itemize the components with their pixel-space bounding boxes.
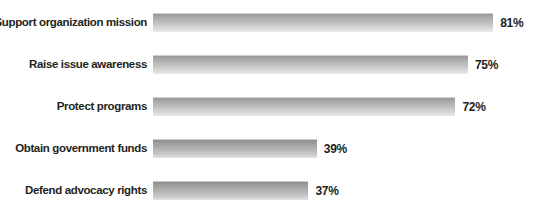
bar-track: [153, 97, 455, 116]
bar-fill: [153, 181, 308, 200]
category-label: Defend advocacy rights: [25, 185, 147, 197]
category-label: Obtain government funds: [15, 143, 147, 155]
bar-fill: [153, 139, 317, 158]
bar-row: Raise issue awareness 75%: [0, 55, 549, 74]
bar-fill: [153, 13, 493, 32]
bar-value-label: 37%: [315, 185, 338, 197]
bar-fill: [153, 55, 468, 74]
category-label: Protect programs: [57, 101, 147, 113]
plot-area: Support organization mission 81% Raise i…: [0, 0, 549, 218]
bar-track: [153, 13, 493, 32]
category-label: Raise issue awareness: [29, 59, 147, 71]
bar-value-label: 75%: [475, 59, 498, 71]
bar-row: Support organization mission 81%: [0, 13, 549, 32]
bar-row: Protect programs 72%: [0, 97, 549, 116]
bar-track: [153, 181, 308, 200]
bar-value-label: 39%: [324, 143, 347, 155]
category-label: Support organization mission: [0, 17, 147, 29]
bar-track: [153, 55, 468, 74]
bar-track: [153, 139, 317, 158]
bar-fill: [153, 97, 455, 116]
bar-value-label: 72%: [462, 101, 485, 113]
bar-row: Defend advocacy rights 37%: [0, 181, 549, 200]
bar-value-label: 81%: [500, 17, 523, 29]
horizontal-bar-chart: Support organization mission 81% Raise i…: [0, 0, 549, 218]
bar-row: Obtain government funds 39%: [0, 139, 549, 158]
